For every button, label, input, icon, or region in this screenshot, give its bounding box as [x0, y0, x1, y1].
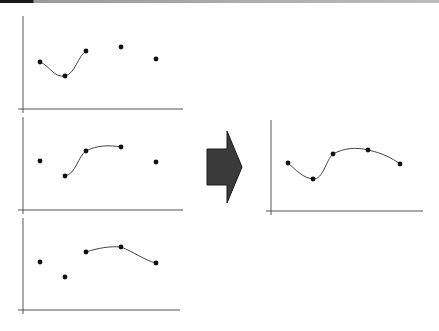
curve-segment [40, 51, 86, 76]
data-points [38, 145, 159, 179]
data-points [38, 45, 159, 79]
combined-curve [288, 148, 400, 179]
diagram-canvas [0, 0, 439, 331]
panel-segment-2 [18, 117, 183, 214]
panel-segment-3 [18, 218, 180, 314]
curve-segment [65, 146, 121, 176]
panel-combined-curve [266, 120, 423, 215]
panel-segment-1 [18, 16, 183, 113]
data-points [286, 148, 403, 182]
right-arrow-icon [207, 131, 242, 203]
data-points [38, 245, 159, 280]
